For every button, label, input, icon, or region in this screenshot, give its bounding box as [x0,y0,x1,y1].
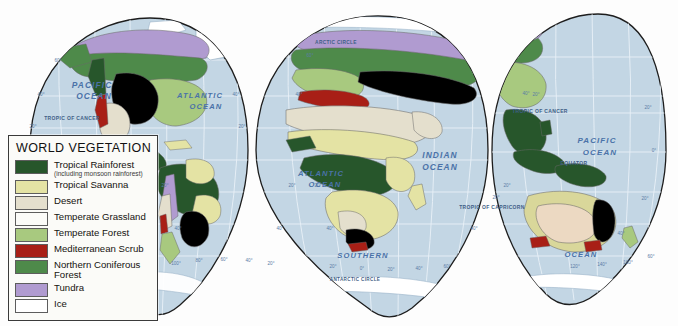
legend-label: Northern Coniferous Forest [54,259,151,281]
legend-title: WORLD VEGETATION [16,141,151,155]
graticule-tick-label: 40° [246,258,253,263]
region-tundra-ne-asia [491,16,542,42]
legend-item: Tropical Rainforest(including monsoon ra… [15,159,151,178]
region-mediterranean-cape [348,242,368,252]
legend-label: Tropical Rainforest(including monsoon ra… [54,159,143,178]
region-rainforest-philippines [540,120,552,136]
map-legend: WORLD VEGETATION Tropical Rainforest(inc… [8,135,158,321]
legend-swatch [15,228,48,242]
legend-swatch [15,180,48,194]
legend-label: Mediterranean Scrub [54,243,144,254]
legend-swatch [15,244,48,258]
legend-label: Temperate Grassland [54,211,146,222]
legend-item: Tundra [15,282,151,297]
legend-sublabel: (including monsoon rainforest) [54,170,143,177]
legend-label: Tropical Savanna [54,179,128,190]
legend-item: Northern Coniferous Forest [15,259,151,281]
region-mediterranean-se-australia [584,240,602,252]
world-vegetation-map: PACIFICOCEANATLANTICOCEANATLANTICOCEANIN… [0,0,678,326]
legend-swatch [15,196,48,210]
legend-item: Desert [15,195,151,210]
graticule-tick-label: 60° [648,254,655,259]
graticule-tick-label: 60° [221,257,228,262]
legend-item: Temperate Forest [15,227,151,242]
region-grassland-pampas [180,211,209,247]
lobe-asia-australia [486,8,672,305]
legend-items: Tropical Rainforest(including monsoon ra… [15,159,151,313]
legend-swatch [15,160,48,174]
legend-label: Tundra [54,282,84,293]
legend-label: Ice [54,298,67,309]
legend-item: Temperate Grassland [15,211,151,226]
legend-label: Desert [54,195,82,206]
legend-swatch [15,260,48,274]
region-coniferous-ne-asia [489,28,543,63]
lobe-africa-europe [250,8,495,320]
legend-swatch [15,283,48,297]
legend-item: Tropical Savanna [15,179,151,194]
legend-item: Ice [15,298,151,313]
graticule-tick-label: 20° [268,261,275,266]
legend-swatch [15,212,48,226]
legend-label: Temperate Forest [54,227,129,238]
legend-item: Mediterranean Scrub [15,243,151,258]
legend-swatch [15,299,48,313]
